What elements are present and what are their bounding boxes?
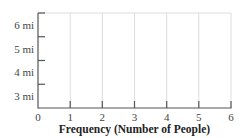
- x-tick-4: 4: [164, 111, 170, 123]
- x-tick-3: 3: [132, 111, 138, 123]
- y-label-6mi: 6 mi: [14, 19, 34, 31]
- y-label-3mi: 3 mi: [14, 90, 34, 102]
- x-axis-labels: 0 1 2 3 4 5 6: [35, 111, 234, 123]
- vertical-gridlines: [70, 13, 231, 108]
- x-tick-5: 5: [196, 111, 202, 123]
- x-tick-2: 2: [100, 111, 106, 123]
- x-axis-ticks: [70, 101, 231, 108]
- x-axis-title: Frequency (Number of People): [59, 123, 210, 136]
- chart-canvas: 6 mi 5 mi 4 mi 3 mi 0 1 2 3 4 5 6 Freque…: [0, 0, 246, 138]
- x-tick-6: 6: [228, 111, 234, 123]
- x-tick-1: 1: [67, 111, 73, 123]
- y-axis-labels: 6 mi 5 mi 4 mi 3 mi: [14, 19, 34, 102]
- y-axis-ticks: [38, 13, 45, 84]
- x-tick-0: 0: [35, 111, 41, 123]
- y-label-4mi: 4 mi: [14, 66, 34, 78]
- y-label-5mi: 5 mi: [14, 43, 34, 55]
